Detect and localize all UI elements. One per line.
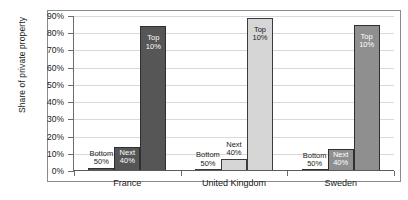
- gridline: [74, 85, 394, 86]
- y-axis-tick-label: 30%: [24, 114, 64, 124]
- x-axis-tick: [287, 171, 288, 176]
- x-axis-tick: [181, 171, 182, 176]
- y-axis-tick-label: 20%: [24, 132, 64, 142]
- gridline: [74, 68, 394, 69]
- x-axis-category-label: United Kingdom: [181, 178, 288, 188]
- y-axis-tick: [68, 102, 73, 103]
- y-axis-tick: [68, 50, 73, 51]
- gridline: [74, 102, 394, 103]
- x-axis-tick: [74, 171, 75, 176]
- y-axis-tick-label: 10%: [24, 149, 64, 159]
- gridline: [74, 50, 394, 51]
- y-axis-tick: [68, 85, 73, 86]
- x-axis-category-label: Sweden: [287, 178, 394, 188]
- y-axis-tick-label: 50%: [24, 80, 64, 90]
- y-axis-tick: [68, 171, 73, 172]
- gridline: [74, 33, 394, 34]
- bar-label-line1: Bottom: [196, 150, 220, 159]
- bar[interactable]: [354, 25, 380, 171]
- y-axis-tick-label: 40%: [24, 97, 64, 107]
- y-axis-tick: [68, 137, 73, 138]
- bar[interactable]: [247, 18, 273, 171]
- x-axis-category-label: France: [74, 178, 181, 188]
- plot-area: Bottom50%Next40%Top10%Bottom50%Next40%To…: [74, 16, 394, 171]
- y-axis-tick: [68, 119, 73, 120]
- bar[interactable]: [328, 149, 354, 171]
- bar-label-line2: 50%: [307, 159, 322, 168]
- bar-label-line2: 50%: [200, 159, 215, 168]
- y-axis-tick-label: 90%: [24, 11, 64, 21]
- y-axis-tick-label: 70%: [24, 45, 64, 55]
- bar[interactable]: [140, 26, 166, 171]
- x-axis-tick: [394, 171, 395, 176]
- y-axis-tick: [68, 68, 73, 69]
- bar-label-line1: Next: [226, 140, 241, 149]
- baseline-axis: [74, 170, 394, 171]
- gridline: [74, 119, 394, 120]
- gridline: [74, 137, 394, 138]
- bar[interactable]: [114, 147, 140, 171]
- bar-label-line1: Bottom: [303, 151, 327, 160]
- bar-label-line2: 50%: [94, 157, 109, 166]
- y-axis-tick-label: 0%: [24, 166, 64, 176]
- y-axis-tick-label: 60%: [24, 63, 64, 73]
- bar-chart: Share of private property 0%10%20%30%40%…: [0, 0, 408, 200]
- gridline: [74, 16, 394, 17]
- y-axis-tick: [68, 33, 73, 34]
- y-axis-tick: [68, 154, 73, 155]
- y-axis-tick-label: 80%: [24, 28, 64, 38]
- y-axis-tick: [68, 16, 73, 17]
